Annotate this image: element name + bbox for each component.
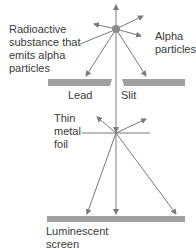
foil-label: Thin metal foil xyxy=(54,112,81,151)
luminescent-screen xyxy=(47,216,185,222)
lead-plate-left xyxy=(48,79,112,86)
ray-down-right xyxy=(116,29,146,76)
ray-upright xyxy=(116,16,143,29)
backscatter-left xyxy=(97,117,116,133)
lead-label: Lead xyxy=(68,89,92,102)
screen-label: Luminescent screen xyxy=(46,225,108,251)
radioactive-source xyxy=(112,25,120,33)
slit-label: Slit xyxy=(121,89,136,102)
lead-plate-right xyxy=(122,79,185,86)
source-label: Radioactive substance that emits alpha p… xyxy=(9,23,81,75)
deflected-right xyxy=(116,133,176,214)
deflected-left xyxy=(87,133,116,214)
ray-down-left xyxy=(86,29,116,76)
backscatter-right xyxy=(116,119,146,133)
alpha-label: Alpha particles xyxy=(155,30,196,56)
